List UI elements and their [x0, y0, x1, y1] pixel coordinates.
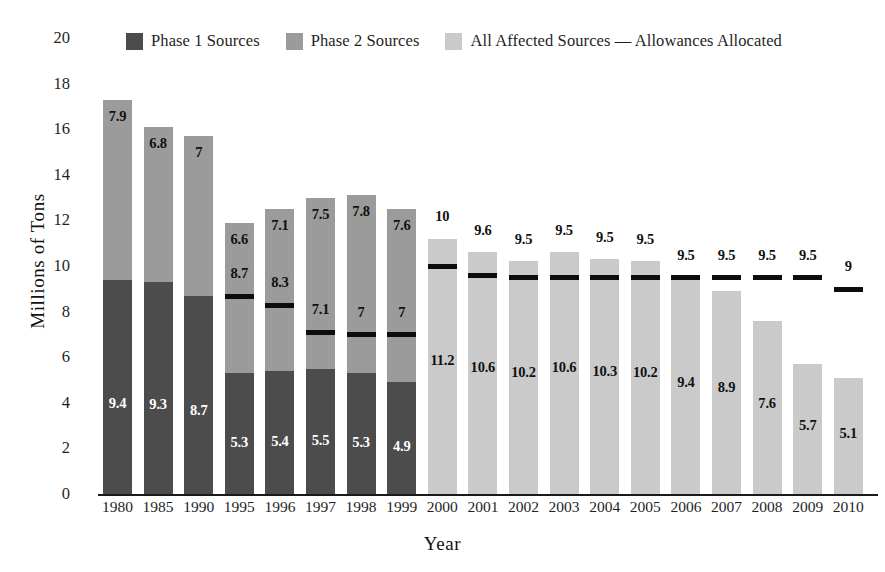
bar-label-2005-allowance: 9.5: [631, 232, 660, 247]
bar-group-2007[interactable]: 8.99.5: [712, 0, 741, 572]
allowance-line-1996: [265, 303, 294, 308]
segment-phase-1-1980: [103, 280, 132, 494]
x-tick-1999: 1999: [382, 498, 421, 516]
bar-group-1998[interactable]: 5.37.87: [347, 0, 376, 572]
segment-phase-1-1997: [306, 369, 335, 494]
x-tick-2010: 2010: [829, 498, 868, 516]
bar-group-1985[interactable]: 9.36.8: [144, 0, 173, 572]
allowance-line-1997: [306, 330, 335, 335]
x-tick-2008: 2008: [748, 498, 787, 516]
bar-label-2002-all: 10.2: [509, 365, 538, 380]
x-axis-title: Year: [0, 533, 885, 555]
bar-group-1999[interactable]: 4.97.67: [387, 0, 416, 572]
bar-label-2003-all: 10.6: [550, 360, 579, 375]
bar-label-1996-phase2: 7.1: [265, 218, 294, 233]
x-tick-2004: 2004: [585, 498, 624, 516]
bar-group-2004[interactable]: 10.39.5: [590, 0, 619, 572]
x-tick-1990: 1990: [179, 498, 218, 516]
y-tick-12: 12: [30, 210, 70, 230]
segment-phase-2-1999: [387, 209, 416, 382]
allowance-line-2007: [712, 275, 741, 280]
allowance-line-2003: [550, 275, 579, 280]
x-tick-2007: 2007: [707, 498, 746, 516]
segment-phase-1-1990: [184, 296, 213, 494]
allowance-line-2004: [590, 275, 619, 280]
x-tick-2002: 2002: [504, 498, 543, 516]
bar-label-2010-allowance: 9: [834, 259, 863, 274]
bar-label-2005-all: 10.2: [631, 365, 660, 380]
y-tick-20: 20: [30, 28, 70, 48]
bar-label-2008-allowance: 9.5: [753, 248, 782, 263]
x-tick-1997: 1997: [301, 498, 340, 516]
x-tick-2003: 2003: [545, 498, 584, 516]
bar-label-1996-allowance: 8.3: [265, 275, 294, 290]
bar-label-2004-all: 10.3: [590, 364, 619, 379]
bar-label-1980-phase1: 9.4: [103, 396, 132, 411]
allowance-line-2008: [753, 275, 782, 280]
bar-label-2006-allowance: 9.5: [671, 248, 700, 263]
x-tick-1995: 1995: [220, 498, 259, 516]
allowance-line-2002: [509, 275, 538, 280]
bar-group-1995[interactable]: 5.36.68.7: [225, 0, 254, 572]
bar-group-2001[interactable]: 10.69.6: [468, 0, 497, 572]
x-tick-1996: 1996: [260, 498, 299, 516]
bar-label-1985-phase2: 6.8: [144, 136, 173, 151]
bar-label-2009-allowance: 9.5: [793, 248, 822, 263]
bar-label-1998-phase1: 5.3: [347, 435, 376, 450]
bar-label-1995-phase2: 6.6: [225, 232, 254, 247]
y-axis-tick-labels: 02468101214161820: [20, 0, 70, 572]
bar-label-2008-all: 7.6: [753, 396, 782, 411]
bar-group-2010[interactable]: 5.19: [834, 0, 863, 572]
bar-label-1990-phase2: 7: [184, 145, 213, 160]
bar-label-2000-all: 11.2: [428, 353, 457, 368]
bar-group-2003[interactable]: 10.69.5: [550, 0, 579, 572]
segment-phase-2-1997: [306, 198, 335, 369]
bar-group-2008[interactable]: 7.69.5: [753, 0, 782, 572]
bar-label-1995-allowance: 8.7: [225, 266, 254, 281]
bar-group-1990[interactable]: 8.77: [184, 0, 213, 572]
x-tick-1980: 1980: [98, 498, 137, 516]
bar-group-2009[interactable]: 5.79.5: [793, 0, 822, 572]
y-tick-4: 4: [30, 393, 70, 413]
x-tick-2009: 2009: [788, 498, 827, 516]
bar-label-1999-phase2: 7.6: [387, 218, 416, 233]
bar-label-1999-phase1: 4.9: [387, 439, 416, 454]
bar-label-1997-allowance: 7.1: [306, 302, 335, 317]
y-tick-6: 6: [30, 347, 70, 367]
y-tick-16: 16: [30, 119, 70, 139]
bar-label-2001-allowance: 9.6: [468, 223, 497, 238]
so2-emissions-stacked-bar-chart: Phase 1 SourcesPhase 2 SourcesAll Affect…: [0, 0, 885, 572]
bar-label-1999-allowance: 7: [387, 305, 416, 320]
bar-label-2000-allowance: 10: [428, 209, 457, 224]
bar-label-2010-all: 5.1: [834, 426, 863, 441]
bar-group-1980[interactable]: 9.47.9: [103, 0, 132, 572]
bar-group-1996[interactable]: 5.47.18.3: [265, 0, 294, 572]
x-tick-2005: 2005: [626, 498, 665, 516]
allowance-line-1999: [387, 332, 416, 337]
bar-label-2002-allowance: 9.5: [509, 232, 538, 247]
bar-label-2006-all: 9.4: [671, 375, 700, 390]
y-tick-8: 8: [30, 302, 70, 322]
bar-label-1998-allowance: 7: [347, 305, 376, 320]
bar-label-1980-phase2: 7.9: [103, 109, 132, 124]
x-tick-1985: 1985: [139, 498, 178, 516]
bar-label-2007-all: 8.9: [712, 380, 741, 395]
bar-label-1985-phase1: 9.3: [144, 397, 173, 412]
bar-label-1997-phase1: 5.5: [306, 433, 335, 448]
bar-group-1997[interactable]: 5.57.57.1: [306, 0, 335, 572]
x-tick-1998: 1998: [342, 498, 381, 516]
allowance-line-2005: [631, 275, 660, 280]
bar-group-2000[interactable]: 11.210: [428, 0, 457, 572]
bar-label-2009-all: 5.7: [793, 418, 822, 433]
bar-label-1996-phase1: 5.4: [265, 434, 294, 449]
bar-group-2002[interactable]: 10.29.5: [509, 0, 538, 572]
x-tick-2000: 2000: [423, 498, 462, 516]
x-axis-baseline: [98, 494, 878, 496]
segment-phase-2-1980: [103, 100, 132, 280]
y-tick-0: 0: [30, 484, 70, 504]
bar-group-2006[interactable]: 9.49.5: [671, 0, 700, 572]
allowance-line-2010: [834, 287, 863, 292]
bar-group-2005[interactable]: 10.29.5: [631, 0, 660, 572]
bar-label-2001-all: 10.6: [468, 360, 497, 375]
allowance-line-2006: [671, 275, 700, 280]
